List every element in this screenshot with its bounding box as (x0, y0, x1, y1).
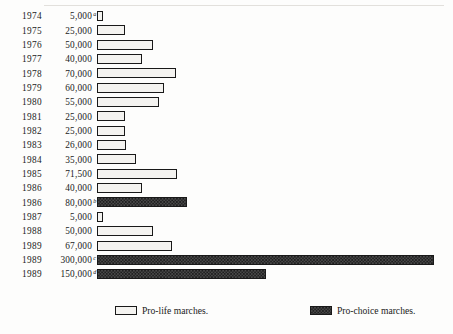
row-value-number: 35,000 (65, 155, 92, 165)
row-value-label: 80,000b (56, 198, 92, 208)
legend-item-prolife: Pro-life marches. (115, 305, 208, 316)
row-value-number: 55,000 (65, 97, 92, 107)
bar-prolife (97, 169, 177, 179)
bar-prolife (97, 68, 176, 78)
chart-legend: Pro-life marches. Pro-choice marches. (0, 305, 453, 325)
bar-track (97, 97, 159, 107)
row-value-number: 25,000 (65, 26, 92, 36)
chart-rows: 19745,000a197525,000197650,000197740,000… (0, 9, 453, 282)
chart-row: 197650,000 (0, 38, 453, 52)
row-year-label: 1980 (22, 97, 58, 107)
row-value-number: 25,000 (65, 112, 92, 122)
row-value-number: 40,000 (65, 183, 92, 193)
row-year-label: 1979 (22, 83, 58, 93)
row-value-footnote: a (93, 10, 96, 17)
chart-row: 198125,000 (0, 109, 453, 123)
bar-prolife (97, 241, 172, 251)
bar-prolife (97, 11, 103, 21)
bar-track (97, 54, 142, 64)
row-year-label: 1982 (22, 126, 58, 136)
top-divider (44, 5, 444, 6)
bar-prolife (97, 97, 159, 107)
legend-swatch-prochoice-icon (310, 306, 332, 316)
row-value-label: 25,000 (56, 126, 92, 136)
bar-track (97, 11, 103, 21)
row-year-label: 1976 (22, 40, 58, 50)
chart-row: 1989150,000d (0, 267, 453, 281)
bar-prolife (97, 25, 125, 35)
row-value-label: 25,000 (56, 26, 92, 36)
bar-chart-figure: 19745,000a197525,000197650,000197740,000… (0, 0, 453, 334)
chart-row: 19875,000 (0, 210, 453, 224)
bar-prolife (97, 226, 153, 236)
bar-prochoice (97, 255, 434, 265)
chart-row: 198326,000 (0, 138, 453, 152)
bar-prolife (97, 183, 142, 193)
row-value-label: 55,000 (56, 97, 92, 107)
bar-track (97, 111, 125, 121)
chart-row: 19745,000a (0, 9, 453, 23)
chart-row: 197870,000 (0, 66, 453, 80)
row-value-label: 40,000 (56, 183, 92, 193)
row-value-label: 26,000 (56, 140, 92, 150)
bar-track (97, 169, 177, 179)
legend-item-prochoice: Pro-choice marches. (310, 305, 415, 316)
chart-row: 1989300,000c (0, 253, 453, 267)
chart-row: 198967,000 (0, 239, 453, 253)
row-value-number: 50,000 (65, 226, 92, 236)
chart-row: 197525,000 (0, 23, 453, 37)
bar-prolife (97, 212, 103, 222)
row-year-label: 1989 (22, 269, 58, 279)
bar-track (97, 83, 164, 93)
row-value-label: 300,000c (56, 255, 92, 265)
bar-track (97, 226, 153, 236)
chart-row: 198435,000 (0, 152, 453, 166)
row-value-footnote: b (93, 197, 96, 204)
chart-row: 198850,000 (0, 224, 453, 238)
row-value-number: 25,000 (65, 126, 92, 136)
row-year-label: 1986 (22, 183, 58, 193)
row-value-label: 71,500 (56, 169, 92, 179)
bar-prolife (97, 126, 125, 136)
chart-row: 197740,000 (0, 52, 453, 66)
row-value-label: 40,000 (56, 54, 92, 64)
bar-track (97, 255, 434, 265)
legend-swatch-prolife-icon (115, 306, 137, 316)
row-value-label: 25,000 (56, 112, 92, 122)
row-value-number: 71,500 (65, 169, 92, 179)
row-year-label: 1975 (22, 26, 58, 36)
row-value-label: 50,000 (56, 40, 92, 50)
legend-label-prolife: Pro-life marches. (142, 305, 208, 316)
row-year-label: 1978 (22, 69, 58, 79)
row-year-label: 1985 (22, 169, 58, 179)
row-value-number: 40,000 (65, 54, 92, 64)
chart-row: 198055,000 (0, 95, 453, 109)
bar-track (97, 183, 142, 193)
bar-track (97, 269, 266, 279)
row-value-footnote: c (93, 254, 96, 261)
row-year-label: 1977 (22, 54, 58, 64)
row-value-number: 26,000 (65, 140, 92, 150)
row-year-label: 1983 (22, 140, 58, 150)
chart-row: 198225,000 (0, 124, 453, 138)
bar-prolife (97, 154, 136, 164)
bar-prolife (97, 140, 126, 150)
bar-track (97, 197, 187, 207)
row-value-number: 67,000 (65, 241, 92, 251)
row-value-number: 80,000 (65, 198, 92, 208)
bar-prochoice (97, 197, 187, 207)
row-value-label: 5,000 (56, 212, 92, 222)
row-value-label: 5,000a (56, 11, 92, 21)
bar-prochoice (97, 269, 266, 279)
chart-row: 198640,000 (0, 181, 453, 195)
row-value-label: 150,000d (56, 269, 92, 279)
row-value-number: 70,000 (65, 69, 92, 79)
row-value-number: 5,000 (70, 11, 92, 21)
row-year-label: 1989 (22, 255, 58, 265)
row-value-label: 50,000 (56, 226, 92, 236)
row-value-number: 5,000 (70, 212, 92, 222)
row-year-label: 1988 (22, 226, 58, 236)
bar-track (97, 68, 176, 78)
row-value-number: 150,000 (60, 269, 92, 279)
row-value-footnote: d (93, 268, 96, 275)
